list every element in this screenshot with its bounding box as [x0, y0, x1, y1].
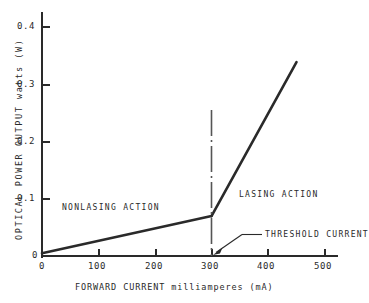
nonlasing-segment	[42, 216, 212, 253]
annotation-lasing: LASING ACTION	[239, 190, 319, 199]
annotation-threshold-current: THRESHOLD CURRENT	[265, 230, 369, 239]
annotation-nonlasing: NONLASING ACTION	[62, 203, 160, 212]
